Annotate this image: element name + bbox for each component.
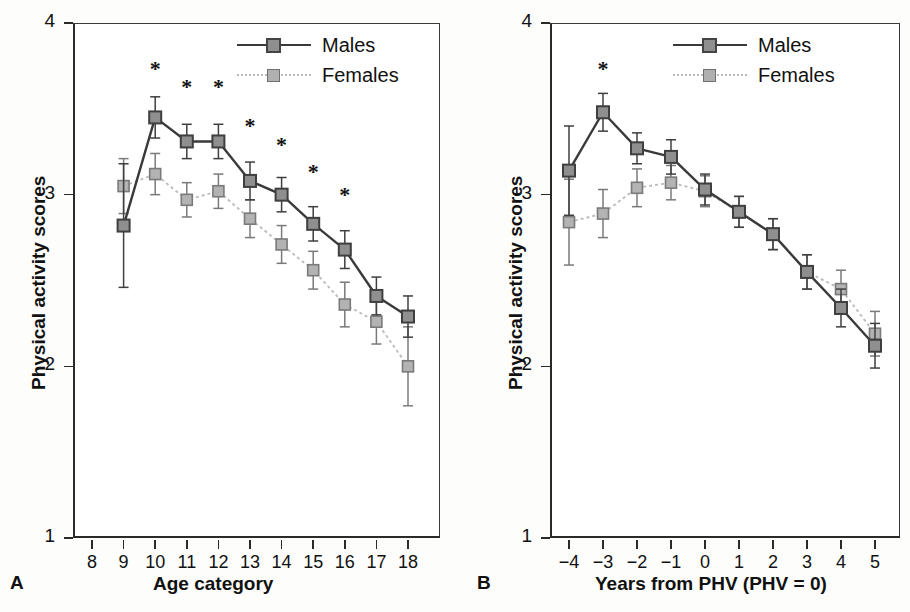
data-point-marker: [213, 186, 224, 197]
data-point-marker: [308, 265, 319, 276]
data-point-marker: [699, 184, 711, 196]
panel-a: Physical activity scores Age category A …: [0, 0, 455, 612]
significance-star: *: [179, 76, 195, 98]
legend-marker-males: [702, 38, 717, 53]
data-point-marker: [370, 290, 382, 302]
legend-item-males: Males: [237, 30, 399, 60]
legend-marker-females: [267, 69, 280, 82]
significance-star: *: [274, 134, 290, 156]
figure-container: Physical activity scores Age category A …: [0, 0, 910, 612]
legend-label-males: Males: [758, 34, 811, 57]
legend-item-females: Females: [237, 60, 399, 90]
series-line-males: [124, 117, 408, 316]
data-point-marker: [665, 151, 677, 163]
legend-swatch-females: [237, 63, 311, 87]
series-line-females: [569, 183, 875, 334]
data-point-marker: [245, 213, 256, 224]
data-point-marker: [181, 135, 193, 147]
data-point-marker: [181, 194, 192, 205]
legend-marker-males: [266, 38, 281, 53]
data-layer-a: [0, 0, 455, 612]
data-point-marker: [276, 189, 288, 201]
data-point-marker: [733, 206, 745, 218]
data-point-marker: [632, 182, 643, 193]
data-point-marker: [835, 302, 847, 314]
data-point-marker: [339, 299, 350, 310]
data-layer-b: [455, 0, 910, 612]
legend-b: MalesFemales: [673, 30, 835, 90]
data-point-marker: [869, 340, 881, 352]
data-point-marker: [244, 175, 256, 187]
data-point-marker: [307, 218, 319, 230]
legend-swatch-females: [673, 63, 747, 87]
significance-star: *: [210, 76, 226, 98]
data-point-marker: [767, 228, 779, 240]
data-point-marker: [339, 244, 351, 256]
data-point-marker: [666, 177, 677, 188]
data-point-marker: [403, 361, 414, 372]
data-point-marker: [118, 220, 130, 232]
series-line-females: [124, 174, 408, 366]
data-point-marker: [631, 142, 643, 154]
data-point-marker: [597, 106, 609, 118]
data-point-marker: [563, 165, 575, 177]
data-point-marker: [276, 239, 287, 250]
data-point-marker: [371, 316, 382, 327]
significance-star: *: [242, 115, 258, 137]
legend-label-females: Females: [758, 64, 835, 87]
panel-b: Physical activity scores Years from PHV …: [455, 0, 910, 612]
legend-label-females: Females: [322, 64, 399, 87]
significance-star: *: [305, 161, 321, 183]
significance-star: *: [337, 184, 353, 206]
data-point-marker: [212, 135, 224, 147]
data-point-marker: [598, 208, 609, 219]
data-point-marker: [149, 111, 161, 123]
legend-item-males: Males: [673, 30, 835, 60]
data-point-marker: [801, 266, 813, 278]
data-point-marker: [564, 217, 575, 228]
legend-swatch-males: [237, 33, 311, 57]
data-point-marker: [150, 169, 161, 180]
legend-swatch-males: [673, 33, 747, 57]
legend-item-females: Females: [673, 60, 835, 90]
significance-star: *: [147, 58, 163, 80]
legend-a: MalesFemales: [237, 30, 399, 90]
data-point-marker: [402, 311, 414, 323]
significance-star: *: [595, 58, 611, 80]
series-line-males: [569, 112, 875, 345]
legend-marker-females: [703, 69, 716, 82]
legend-label-males: Males: [322, 34, 375, 57]
